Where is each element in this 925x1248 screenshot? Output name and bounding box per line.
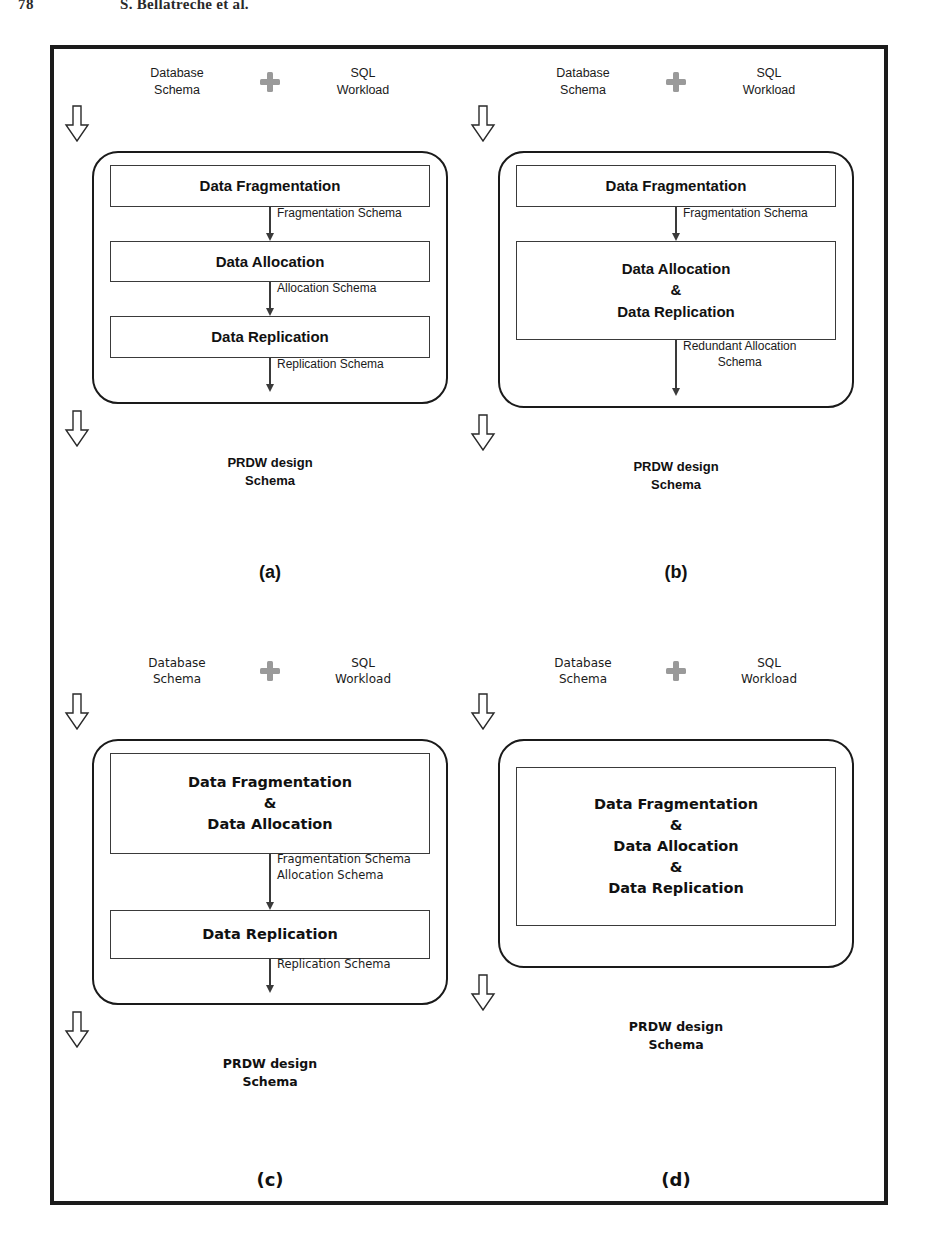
connector-stem (269, 854, 270, 903)
database-schema-label: Database Schema (138, 65, 216, 99)
arrow-head-icon (672, 388, 680, 396)
panel-b-process-container: Data Fragmentation Fragmentation Schema … (498, 151, 854, 408)
running-head: 78 S. Bellatreche et al. (0, 0, 925, 16)
panel-caption-b: (b) (470, 562, 882, 583)
connector-allocation-schema: Allocation Schema (110, 282, 430, 316)
database-schema-label: Database Schema (544, 655, 622, 687)
arrow-head-icon (266, 985, 274, 993)
hollow-down-arrow-icon-output (64, 410, 476, 448)
step-data-fragmentation: Data Fragmentation (110, 165, 430, 207)
panel-b: Database Schema SQL Workload Data Fragme… (470, 51, 882, 611)
connector-label: Fragmentation Schema (683, 205, 808, 221)
running-head-authors: S. Bellatreche et al. (120, 0, 249, 13)
arrow-head-icon (266, 233, 274, 241)
database-schema-label: Database Schema (544, 65, 622, 99)
step-ampersand-1: & (523, 815, 829, 836)
output-prdw-design-schema: PRDW design Schema (470, 1018, 882, 1053)
step-data-replication: Data Replication (110, 316, 430, 358)
connector-stem (675, 340, 676, 389)
step-data-replication: Data Replication (110, 910, 430, 959)
connector-stem (269, 207, 270, 234)
step-ampersand: & (523, 279, 829, 301)
connector-stem (269, 358, 270, 385)
hollow-down-arrow-icon (470, 105, 882, 143)
step-line-3: Data Replication (523, 878, 829, 899)
connector-replication-schema: Replication Schema (110, 358, 430, 392)
plus-icon (260, 72, 280, 92)
panel-caption-d: (d) (470, 1169, 882, 1190)
sql-workload-label: SQL Workload (324, 65, 402, 99)
panel-d-process-container: Data Fragmentation & Data Allocation & D… (498, 739, 854, 968)
step-ampersand-2: & (523, 857, 829, 878)
step-line-2: Data Allocation (523, 836, 829, 857)
hollow-down-arrow-icon (64, 693, 476, 731)
step-data-allocation-and-replication: Data Allocation & Data Replication (516, 241, 836, 340)
connector-redundant-allocation-schema: Redundant Allocation Schema (516, 340, 836, 396)
panel-c: Database Schema SQL Workload Data Fragme… (64, 629, 476, 1204)
step-line-1: Data Fragmentation (594, 796, 758, 812)
hollow-down-arrow-icon (470, 693, 882, 731)
step-line-2: Data Allocation (117, 814, 423, 835)
panel-c-inputs-row: Database Schema SQL Workload (64, 655, 476, 687)
page-number: 78 (18, 0, 34, 13)
step-ampersand: & (117, 793, 423, 814)
connector-replication-schema: Replication Schema (110, 959, 430, 993)
database-schema-label: Database Schema (138, 655, 216, 687)
connector-label: Replication Schema (277, 957, 391, 973)
sql-workload-label: SQL Workload (324, 655, 402, 687)
connector-fragmentation-schema: Fragmentation Schema (516, 207, 836, 241)
panel-caption-a: (a) (64, 562, 476, 583)
step-data-fragmentation-and-allocation: Data Fragmentation & Data Allocation (110, 753, 430, 854)
hollow-down-arrow-icon (64, 105, 476, 143)
connector-stem (675, 207, 676, 234)
hollow-down-arrow-icon-output (470, 414, 882, 452)
connector-stem (269, 959, 270, 986)
plus-icon (260, 661, 280, 681)
connector-label: Allocation Schema (277, 280, 376, 296)
figure-frame: Database Schema SQL Workload Data Fragme… (50, 45, 888, 1205)
panel-a-process-container: Data Fragmentation Fragmentation Schema … (92, 151, 448, 404)
output-prdw-design-schema: PRDW design Schema (470, 458, 882, 494)
connector-label: Fragmentation Schema Allocation Schema (277, 852, 411, 883)
panel-d: Database Schema SQL Workload Data Fragme… (470, 629, 882, 1204)
sql-workload-label: SQL Workload (730, 65, 808, 99)
step-data-allocation: Data Allocation (110, 241, 430, 283)
panel-b-inputs-row: Database Schema SQL Workload (470, 65, 882, 99)
plus-icon (666, 661, 686, 681)
panel-d-inputs-row: Database Schema SQL Workload (470, 655, 882, 687)
panel-a: Database Schema SQL Workload Data Fragme… (64, 51, 476, 611)
hollow-down-arrow-icon-output (470, 974, 882, 1012)
step-fragmentation-allocation-replication: Data Fragmentation & Data Allocation & D… (516, 767, 836, 926)
step-line-1: Data Allocation (622, 260, 731, 277)
panel-caption-c: (c) (64, 1169, 476, 1190)
step-line-2: Data Replication (523, 301, 829, 323)
arrow-head-icon (266, 384, 274, 392)
output-prdw-design-schema: PRDW design Schema (64, 454, 476, 490)
arrow-head-icon (266, 902, 274, 910)
arrow-head-icon (266, 308, 274, 316)
arrow-head-icon (672, 233, 680, 241)
hollow-down-arrow-icon-output (64, 1011, 476, 1049)
panel-a-inputs-row: Database Schema SQL Workload (64, 65, 476, 99)
step-data-fragmentation: Data Fragmentation (516, 165, 836, 207)
connector-label: Fragmentation Schema (277, 205, 402, 221)
connector-stem (269, 282, 270, 309)
output-prdw-design-schema: PRDW design Schema (64, 1055, 476, 1090)
step-line-1: Data Fragmentation (188, 774, 352, 790)
sql-workload-label: SQL Workload (730, 655, 808, 687)
connector-label: Replication Schema (277, 356, 384, 372)
panel-c-process-container: Data Fragmentation & Data Allocation Fra… (92, 739, 448, 1005)
connector-fragmentation-schema: Fragmentation Schema (110, 207, 430, 241)
connector-fragmentation-allocation-schema: Fragmentation Schema Allocation Schema (110, 854, 430, 910)
connector-label: Redundant Allocation Schema (683, 338, 796, 370)
plus-icon (666, 72, 686, 92)
